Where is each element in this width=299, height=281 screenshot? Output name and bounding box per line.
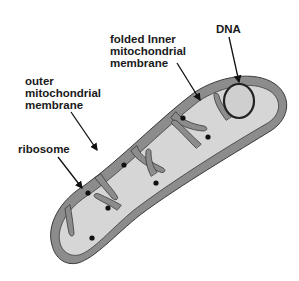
ribosome-dot [180,115,185,120]
ribosome-dot [105,205,110,210]
label-inner-membrane-1: folded Inner [110,33,176,45]
label-dna: DNA [216,23,241,35]
label-outer-membrane-3: membrane [25,99,83,111]
ribosome-dot [153,180,158,185]
arrow-dna [229,37,239,82]
label-outer-membrane-1: outer [25,75,54,87]
label-ribosome: ribosome [18,143,70,155]
ribosome-dot [89,235,94,240]
arrow-outer-membrane [71,112,97,150]
ribosome-dot [85,190,90,195]
dna-ellipse [224,84,254,118]
label-inner-membrane-2: mitochondrial [110,45,186,57]
arrow-inner-membrane [177,63,200,100]
mitochondrion-diagram: DNA folded Inner mitochondrial membrane … [0,0,299,281]
label-inner-membrane-3: membrane [110,57,168,69]
ribosome-dot [121,162,126,167]
arrow-ribosome [58,157,82,188]
ribosome-dot [205,134,210,139]
label-outer-membrane-2: mitochondrial [25,87,101,99]
